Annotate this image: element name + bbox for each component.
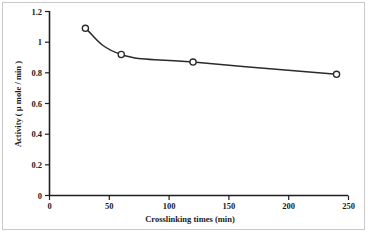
- y-tick-label-1.2: 1.2: [31, 7, 42, 17]
- y-tick-label-0.8: 0.8: [31, 68, 42, 78]
- x-axis-tick-labels: 0 50 100 150 200 250: [47, 201, 355, 211]
- x-tick-label-100: 100: [163, 201, 176, 211]
- y-axis-tick-labels: 0 0.2 0.4 0.6 0.8 1 1.2: [31, 7, 42, 201]
- y-tick-label-1: 1: [38, 37, 42, 47]
- x-tick-label-250: 250: [342, 201, 355, 211]
- data-point: [118, 51, 124, 57]
- activity-vs-crosslinking-time-line-chart: 0 0.2 0.4 0.6 0.8 1 1.2 0 50 100 150 200…: [0, 0, 368, 233]
- x-axis-title: Crosslinking times (min): [145, 214, 235, 224]
- y-tick-label-0.6: 0.6: [31, 99, 42, 109]
- x-tick-label-0: 0: [47, 201, 51, 211]
- data-series-markers: [82, 25, 339, 77]
- x-tick-label-50: 50: [105, 201, 114, 211]
- y-axis-title: Activity ( µ mole / min ): [13, 61, 23, 147]
- y-tick-label-0.2: 0.2: [31, 160, 42, 170]
- x-tick-label-200: 200: [282, 201, 295, 211]
- data-point: [82, 25, 88, 31]
- figure-container: 0 0.2 0.4 0.6 0.8 1 1.2 0 50 100 150 200…: [0, 0, 368, 233]
- data-point: [190, 59, 196, 65]
- data-point: [333, 71, 339, 77]
- x-tick-label-150: 150: [223, 201, 236, 211]
- y-tick-label-0: 0: [38, 191, 42, 201]
- y-tick-label-0.4: 0.4: [31, 129, 42, 139]
